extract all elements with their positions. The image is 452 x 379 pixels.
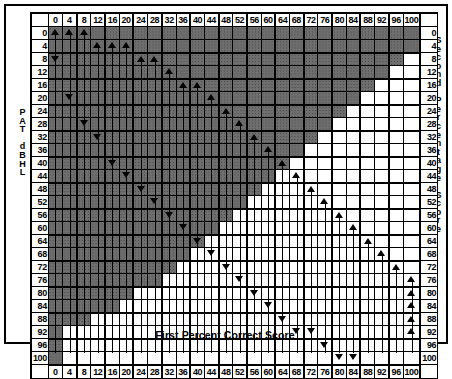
matrix-cell	[204, 27, 218, 40]
matrix-cell	[318, 170, 332, 183]
matrix-cell	[375, 27, 389, 40]
matrix-cell	[77, 92, 91, 105]
matrix-cell	[290, 196, 304, 209]
matrix-cell	[360, 53, 374, 66]
matrix-cell	[219, 209, 233, 222]
matrix-cell	[346, 274, 360, 287]
matrix-cell	[204, 105, 218, 118]
matrix-cell	[318, 222, 332, 235]
matrix-cell	[389, 183, 403, 196]
up-arrow-icon	[51, 29, 59, 35]
matrix-cell	[346, 40, 360, 53]
matrix-cell	[247, 183, 261, 196]
matrix-cell	[275, 118, 289, 131]
matrix-cell	[346, 313, 360, 326]
matrix-cell	[148, 222, 162, 235]
matrix-cell	[91, 313, 105, 326]
matrix-cell	[219, 118, 233, 131]
column-header-72: 72	[304, 13, 318, 27]
up-arrow-icon	[179, 82, 187, 88]
matrix-cell	[360, 157, 374, 170]
matrix-cell	[148, 183, 162, 196]
matrix-cell	[375, 235, 389, 248]
row-header-left-36: 36	[31, 144, 48, 157]
matrix-cell	[360, 248, 374, 261]
matrix-cell	[190, 222, 204, 235]
matrix-cell	[346, 79, 360, 92]
matrix-cell	[403, 131, 420, 144]
matrix-cell	[332, 183, 346, 196]
matrix-cell	[162, 274, 176, 287]
bottom-axis-title: First Percent Correct Score	[34, 329, 416, 341]
row-header-right-28: 28	[420, 118, 437, 131]
column-header-16: 16	[105, 13, 119, 27]
matrix-cell	[332, 27, 346, 40]
matrix-cell	[304, 118, 318, 131]
matrix-cell	[63, 40, 77, 53]
matrix-cell	[148, 118, 162, 131]
matrix-cell	[233, 222, 247, 235]
matrix-cell	[261, 300, 275, 313]
matrix-cell	[119, 118, 133, 131]
matrix-row: 2424	[31, 105, 438, 118]
matrix-cell	[190, 92, 204, 105]
matrix-cell	[162, 92, 176, 105]
matrix-cell	[204, 118, 218, 131]
matrix-cell	[63, 313, 77, 326]
matrix-cell	[275, 144, 289, 157]
matrix-cell	[48, 222, 62, 235]
matrix-cell	[204, 144, 218, 157]
row-header-left-4: 4	[31, 40, 48, 53]
matrix-cell	[375, 144, 389, 157]
matrix-cell	[375, 157, 389, 170]
matrix-cell	[233, 261, 247, 274]
matrix-cell	[190, 118, 204, 131]
matrix-cell	[403, 248, 420, 261]
up-arrow-icon	[349, 224, 357, 230]
matrix-cell	[148, 157, 162, 170]
matrix-cell	[275, 79, 289, 92]
matrix-cell	[233, 131, 247, 144]
matrix-cell	[119, 222, 133, 235]
matrix-cell	[105, 92, 119, 105]
matrix-cell	[162, 40, 176, 53]
matrix-cell	[148, 196, 162, 209]
matrix-cell	[219, 92, 233, 105]
matrix-cell	[304, 144, 318, 157]
matrix-cell	[176, 183, 190, 196]
matrix-cell	[247, 313, 261, 326]
matrix-cell	[119, 105, 133, 118]
up-arrow-icon	[335, 212, 343, 218]
row-header-left-88: 88	[31, 313, 48, 326]
matrix-cell	[48, 170, 62, 183]
column-header-64: 64	[275, 13, 289, 27]
matrix-cell	[63, 183, 77, 196]
matrix-cell	[346, 170, 360, 183]
down-arrow-icon	[207, 250, 215, 256]
matrix-cell	[332, 40, 346, 53]
row-header-right-64: 64	[420, 235, 437, 248]
row-header-right-4: 4	[420, 40, 437, 53]
matrix-cell	[162, 118, 176, 131]
matrix-cell	[403, 196, 420, 209]
matrix-cell	[346, 196, 360, 209]
matrix-cell	[261, 274, 275, 287]
matrix-cell	[48, 287, 62, 300]
matrix-cell	[219, 183, 233, 196]
matrix-row: 44	[31, 40, 438, 53]
column-header-28: 28	[148, 13, 162, 27]
matrix-cell	[190, 248, 204, 261]
matrix-cell	[233, 170, 247, 183]
column-footer-64: 64	[275, 365, 289, 379]
matrix-cell	[133, 222, 147, 235]
matrix-cell	[162, 352, 176, 365]
matrix-cell	[77, 352, 91, 365]
matrix-cell	[219, 157, 233, 170]
matrix-cell	[261, 235, 275, 248]
down-arrow-icon	[250, 290, 258, 296]
matrix-cell	[332, 313, 346, 326]
row-header-right-88: 88	[420, 313, 437, 326]
matrix-cell	[247, 27, 261, 40]
matrix-cell	[148, 300, 162, 313]
matrix-cell	[219, 248, 233, 261]
